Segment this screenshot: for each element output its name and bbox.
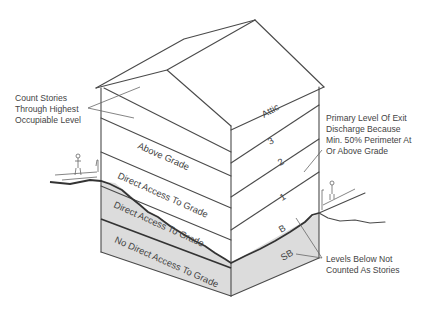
svg-text:Through Highest: Through Highest bbox=[15, 104, 79, 114]
svg-text:Primary Level Of Exit: Primary Level Of Exit bbox=[326, 113, 407, 123]
svg-text:Occupiable Level: Occupiable Level bbox=[15, 115, 81, 125]
building-diagram: Above Grade Direct Access To Grade Direc… bbox=[0, 0, 430, 310]
label-attic: Attic bbox=[260, 101, 282, 120]
svg-text:Counted As Stories: Counted As Stories bbox=[326, 265, 400, 275]
label-story-1: 1 bbox=[278, 191, 288, 203]
person-right-icon bbox=[322, 181, 334, 210]
svg-text:Min. 50% Perimeter At: Min. 50% Perimeter At bbox=[326, 135, 412, 145]
annotation-count-stories: Count Stories Through Highest Occupiable… bbox=[15, 87, 140, 125]
svg-text:Or Above Grade: Or Above Grade bbox=[326, 146, 388, 156]
annotation-primary-exit: Primary Level Of Exit Discharge Because … bbox=[304, 113, 412, 172]
label-story-3: 3 bbox=[266, 135, 276, 147]
svg-text:Discharge Because: Discharge Because bbox=[326, 124, 401, 134]
below-grade-right-fill bbox=[231, 213, 319, 296]
svg-text:Count Stories: Count Stories bbox=[15, 93, 67, 103]
svg-text:Levels Below Not: Levels Below Not bbox=[326, 254, 393, 264]
roof bbox=[96, 20, 324, 152]
label-above-grade: Above Grade bbox=[136, 140, 191, 173]
grade-line bbox=[50, 172, 385, 263]
